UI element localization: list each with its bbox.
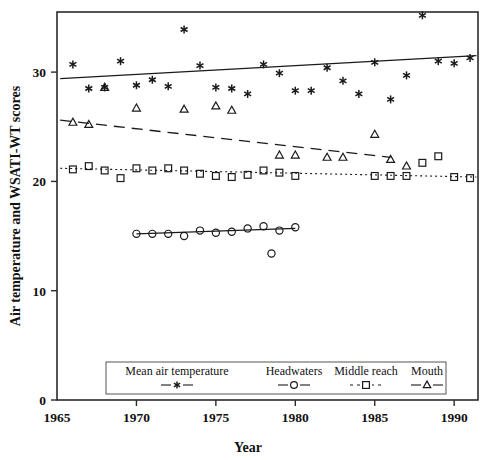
legend-label-3: Mouth (411, 364, 443, 378)
x-tick-label: 1985 (361, 410, 388, 425)
y-tick-label: 20 (33, 174, 47, 189)
legend-label-2: Middle reach (334, 364, 398, 378)
x-tick-label: 1990 (441, 410, 468, 425)
y-tick-label: 30 (33, 65, 47, 80)
x-tick-label: 1975 (202, 410, 229, 425)
y-tick-label: 10 (33, 284, 47, 299)
y-tick-label: 0 (39, 393, 46, 408)
x-tick-label: 1980 (282, 410, 309, 425)
chart-legend: Mean air temperatureHeadwatersMiddle rea… (106, 362, 446, 394)
legend-label-1: Headwaters (266, 364, 323, 378)
x-axis-title: Year (234, 440, 262, 455)
x-tick-label: 1970 (123, 410, 150, 425)
y-axis-title: Air temperature and WSATI-WT scores (8, 85, 23, 326)
scatter-plot: Air temperature and WSATI-WT scores Year… (0, 0, 493, 460)
x-tick-label: 1965 (44, 410, 71, 425)
chart-figure: Air temperature and WSATI-WT scores Year… (0, 0, 493, 460)
legend-label-0: Mean air temperature (125, 364, 228, 378)
